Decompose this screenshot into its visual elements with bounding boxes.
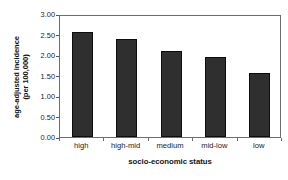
y-axis-tick-labels: 0.000.501.001.502.002.503.00 [28, 0, 55, 180]
x-axis-tick-label: low [253, 141, 264, 151]
x-axis-title: socio-economic status [59, 157, 281, 166]
y-axis-tick-mark [56, 76, 59, 77]
y-axis-tick-mark [56, 35, 59, 36]
bar [249, 73, 270, 137]
x-axis-tick-mark [281, 138, 282, 141]
x-axis-tick-label: mid-low [201, 141, 227, 151]
y-axis-tick-label: 1.50 [41, 73, 55, 81]
x-axis-tick-label: high-mid [111, 141, 140, 151]
y-axis-tick-label: 2.50 [41, 32, 55, 40]
y-axis-tick-mark [56, 138, 59, 139]
y-axis-tick-mark [56, 15, 59, 16]
bar [161, 51, 182, 137]
bar [116, 39, 137, 137]
x-axis-tick-labels: highhigh-midmediummid-lowlow [59, 141, 281, 154]
y-axis-tick-mark [56, 117, 59, 118]
y-axis-tick-label: 3.00 [41, 11, 55, 19]
y-axis-tick-mark [56, 56, 59, 57]
bar-chart: age-adjusted incidence (per 100,000) 0.0… [0, 0, 288, 180]
y-axis-tick-label: 0.00 [41, 134, 55, 142]
x-axis-tick-label: medium [156, 141, 183, 151]
bars-container [60, 16, 280, 137]
y-axis-tick-label: 0.50 [41, 114, 55, 122]
bar [205, 57, 226, 137]
y-axis-tick-label: 2.00 [41, 52, 55, 60]
y-axis-title-line-1: age-adjusted incidence [12, 36, 21, 118]
x-axis-tick-label: high [74, 141, 88, 151]
bar [72, 32, 93, 137]
plot-area [59, 15, 281, 138]
y-axis-tick-mark [56, 97, 59, 98]
y-axis-tick-label: 1.00 [41, 93, 55, 101]
